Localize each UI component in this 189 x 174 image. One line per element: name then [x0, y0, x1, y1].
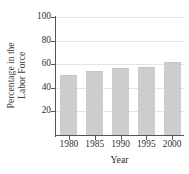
- x-axis-tick-label: 1990: [111, 139, 130, 149]
- y-axis-line: [55, 16, 56, 137]
- x-axis-tick-label: 1995: [137, 139, 156, 149]
- y-axis-tick: [51, 111, 56, 112]
- x-axis-line: [55, 135, 184, 136]
- y-axis-tick: [51, 17, 56, 18]
- y-axis-tick-label: 20: [42, 107, 51, 116]
- y-axis-tick-label: 60: [42, 59, 51, 68]
- plot-area: 10080604020: [55, 17, 184, 136]
- y-axis-title-line-2: Labor Force: [16, 42, 27, 108]
- chart-title-clipped: Women in the Civilian Labor Force: [0, 0, 189, 5]
- chart-title-text: Women in the Civilian Labor Force: [0, 0, 189, 2]
- bar: [60, 75, 77, 135]
- bar: [86, 71, 103, 135]
- y-axis-tick: [51, 64, 56, 65]
- bar: [112, 68, 129, 135]
- x-axis-tick-label: 1985: [85, 139, 104, 149]
- y-axis-title: Percentage in the Labor Force: [0, 14, 32, 136]
- x-axis-tick-label: 1980: [60, 139, 79, 149]
- x-axis-title: Year: [55, 154, 184, 165]
- bar: [164, 62, 181, 135]
- chart-figure: Women in the Civilian Labor Force Percen…: [0, 0, 189, 174]
- y-axis-title-line-1: Percentage in the: [5, 42, 16, 108]
- gridline: [56, 17, 184, 18]
- gridline: [56, 41, 184, 42]
- y-axis-tick: [51, 41, 56, 42]
- y-axis-tick-label: 80: [42, 36, 51, 45]
- y-axis-tick-label: 40: [42, 83, 51, 92]
- y-axis-tick: [51, 88, 56, 89]
- x-axis-tick-label: 2000: [163, 139, 182, 149]
- bar: [138, 67, 155, 135]
- y-axis-tick-label: 100: [37, 12, 51, 21]
